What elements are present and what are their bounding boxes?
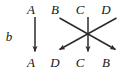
arrow-layer	[0, 0, 128, 73]
permutation-diagram: b A B C D A D C B	[0, 0, 128, 73]
